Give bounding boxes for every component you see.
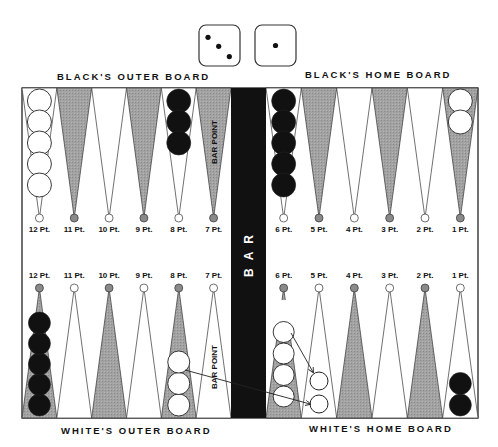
point-label: 10 Pt. [98,271,119,280]
point-label: 9 Pt. [135,271,152,280]
point-label: 10 Pt. [98,225,119,234]
point-label: 2 Pt. [417,271,434,280]
point-label: 12 Pt. [29,271,50,280]
point-label: 4 Pt. [346,225,363,234]
point-label: 2 Pt. [417,225,434,234]
bar-point-annotation: BAR POINT [210,120,219,164]
point-label: 8 Pt. [170,225,187,234]
point-label: 5 Pt. [311,271,328,280]
bar: BAR [231,88,266,418]
bar-point-annotation: BAR POINT [210,345,219,389]
board-frame: 12 Pt.11 Pt.10 Pt.9 Pt.8 Pt.7 Pt.BAR POI… [22,88,478,418]
point-label: 8 Pt. [170,271,187,280]
point-label: 1 Pt. [452,271,469,280]
point-label: 4 Pt. [346,271,363,280]
point-label: 3 Pt. [381,271,398,280]
point-label: 11 Pt. [64,271,85,280]
point-label: 1 Pt. [452,225,469,234]
point-label: 9 Pt. [135,225,152,234]
point-label: 12 Pt. [29,225,50,234]
point-label: 7 Pt. [205,271,222,280]
die-three-icon [199,25,240,66]
dice [199,25,296,66]
board: 12 Pt.11 Pt.10 Pt.9 Pt.8 Pt.7 Pt.BAR POI… [0,0,498,447]
point-label: 6 Pt. [275,271,292,280]
point-label: 7 Pt. [205,225,222,234]
point-label: 6 Pt. [275,225,292,234]
bar-label: BAR [242,227,256,277]
die-one-icon [255,25,296,66]
point-label: 11 Pt. [64,225,85,234]
backgammon-diagram: BLACK'S OUTER BOARD BLACK'S HOME BOARD W… [0,0,498,447]
point-label: 3 Pt. [381,225,398,234]
point-label: 5 Pt. [311,225,328,234]
